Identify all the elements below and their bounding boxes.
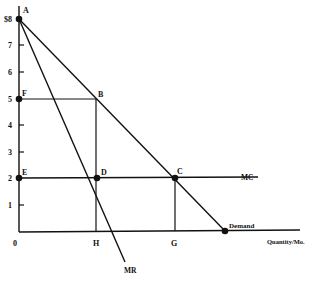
label-f: F bbox=[22, 89, 27, 98]
point-demand-end bbox=[222, 228, 229, 235]
mr-curve bbox=[19, 19, 125, 262]
y-label-1: 1 bbox=[8, 201, 12, 210]
label-d: D bbox=[101, 168, 107, 177]
origin-label: 0 bbox=[13, 239, 17, 248]
label-h: H bbox=[93, 239, 100, 248]
label-a: A bbox=[23, 6, 29, 15]
y-label-4: 4 bbox=[8, 121, 12, 130]
y-label-6: 6 bbox=[8, 68, 12, 77]
y-label-5: 5 bbox=[8, 95, 12, 104]
label-b: B bbox=[98, 90, 104, 99]
label-mc: MC bbox=[241, 173, 254, 182]
point-a bbox=[16, 16, 23, 23]
monopoly-chart: $8 7 6 5 4 3 2 1 0 A F B E D C MC Demand… bbox=[0, 0, 315, 286]
mc-curve bbox=[19, 177, 258, 178]
demand-curve bbox=[19, 19, 225, 231]
label-e: E bbox=[22, 168, 27, 177]
y-label-8: $8 bbox=[4, 15, 12, 24]
x-axis bbox=[19, 230, 300, 232]
y-label-2: 2 bbox=[8, 174, 12, 183]
y-label-3: 3 bbox=[8, 148, 12, 157]
y-label-7: 7 bbox=[8, 41, 12, 50]
label-mr: MR bbox=[124, 266, 137, 275]
label-c: C bbox=[177, 167, 183, 176]
x-axis-label: Quantity/Mo. bbox=[267, 238, 305, 245]
point-d bbox=[94, 175, 101, 182]
label-g: G bbox=[171, 239, 177, 248]
label-demand: Demand bbox=[229, 222, 254, 230]
